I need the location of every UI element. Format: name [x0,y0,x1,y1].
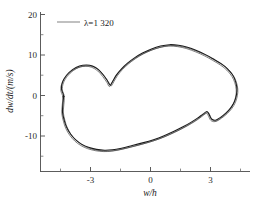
x-tick-label-minus3: -3 [87,175,95,185]
phase-portrait-chart: 20 10 0 -10 -3 0 3 w/h dw/dt/(m/s) λ=1 3… [0,0,267,207]
legend-label-lambda: λ=1 320 [84,18,114,28]
y-tick-label-minus10: -10 [25,131,37,141]
x-axis-title: w/h [143,188,157,198]
plot-area-background [40,10,248,172]
x-tick-label-3: 3 [208,175,213,185]
x-tick-label-0: 0 [148,175,153,185]
y-tick-label-20: 20 [28,10,38,20]
y-tick-label-10: 10 [28,50,38,60]
y-axis-title: dw/dt/(m/s) [5,69,16,112]
figure-container: 20 10 0 -10 -3 0 3 w/h dw/dt/(m/s) λ=1 3… [0,0,267,207]
y-tick-label-0: 0 [33,91,38,101]
